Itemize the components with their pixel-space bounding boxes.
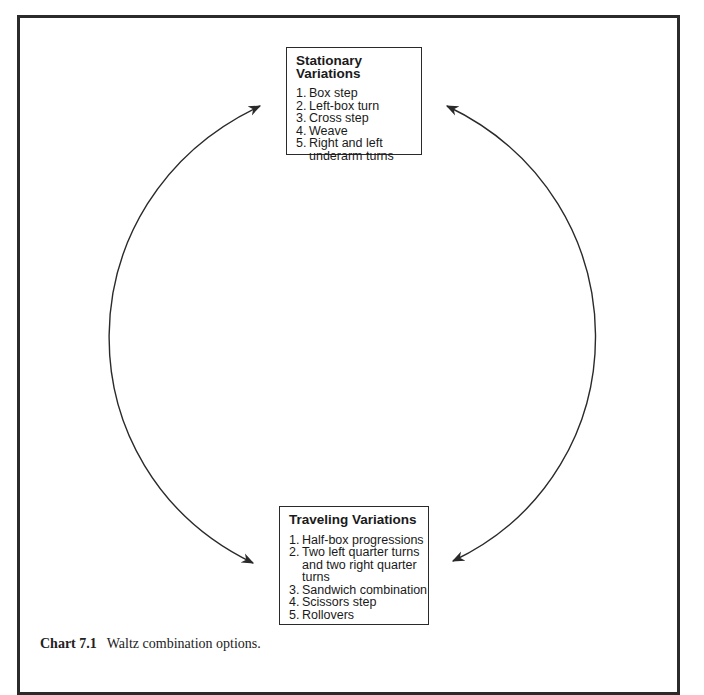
right-arc-arrow	[447, 106, 596, 561]
stationary-variations-title: Stationary Variations	[296, 55, 421, 80]
figure-caption: Chart 7.1Waltz combination options.	[40, 636, 261, 652]
list-item: 5.Rollovers	[289, 609, 428, 622]
stationary-variations-box: Stationary Variations 1.Box step 2.Left-…	[286, 47, 422, 155]
traveling-variations-title: Traveling Variations	[289, 514, 428, 527]
list-item: 3.Cross step	[296, 112, 421, 125]
stationary-variations-list: 1.Box step 2.Left-box turn 3.Cross step …	[296, 87, 421, 162]
list-item: 4.Scissors step	[289, 596, 428, 609]
caption-label: Chart 7.1	[40, 636, 97, 651]
left-arc-arrow	[109, 106, 260, 563]
list-item: 2.Two left quarter turns and two right q…	[289, 546, 428, 584]
caption-text: Waltz combination options.	[107, 636, 261, 651]
traveling-variations-box: Traveling Variations 1.Half-box progress…	[279, 506, 429, 625]
traveling-variations-list: 1.Half-box progressions 2.Two left quart…	[289, 534, 428, 622]
list-item: 1.Box step	[296, 87, 421, 100]
list-item: 5.Right and left underarm turns	[296, 137, 421, 162]
